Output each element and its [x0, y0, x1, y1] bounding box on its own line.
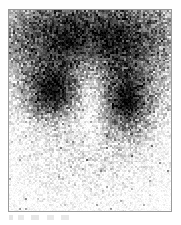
scintigram-image	[9, 10, 171, 211]
scan-frame	[8, 9, 172, 212]
scintigram-page	[0, 0, 181, 225]
caption-artifact	[9, 215, 79, 220]
